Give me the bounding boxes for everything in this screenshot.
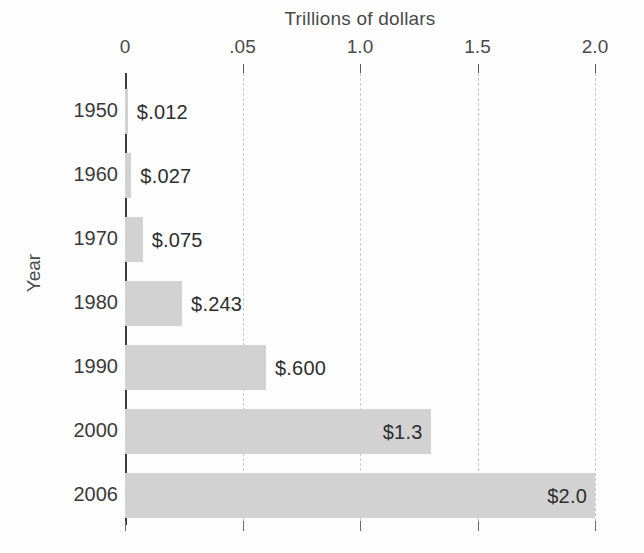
bar-row[interactable]: $.027 bbox=[125, 153, 131, 198]
bar[interactable] bbox=[125, 217, 143, 262]
bar-chart-figure: Trillions of dollars Year 0.051.01.52.0 … bbox=[0, 0, 644, 553]
bar[interactable] bbox=[125, 153, 131, 198]
x-bottom-tick-mark bbox=[478, 521, 479, 531]
x-tick-label: .05 bbox=[208, 36, 278, 58]
bar-row[interactable]: $.075 bbox=[125, 217, 143, 262]
bar-value-label: $.027 bbox=[140, 164, 191, 187]
bar[interactable] bbox=[125, 89, 128, 134]
bar-row[interactable]: $1.3 bbox=[125, 409, 431, 454]
bar-value-label: $.012 bbox=[137, 100, 188, 123]
bar-value-label: $.243 bbox=[191, 292, 242, 315]
x-bottom-tick-mark bbox=[125, 521, 126, 531]
bar-row[interactable]: $2.0 bbox=[125, 473, 595, 518]
x-tick-label: 1.0 bbox=[325, 36, 395, 58]
bar-row[interactable]: $.012 bbox=[125, 89, 128, 134]
gridline-2.0 bbox=[595, 73, 596, 521]
category-label: 1950 bbox=[38, 99, 118, 122]
category-label: 1970 bbox=[38, 227, 118, 250]
bar-value-label: $.075 bbox=[152, 228, 203, 251]
bar-value-label: $2.0 bbox=[547, 484, 587, 507]
x-axis-bottom-tick-marks bbox=[125, 521, 595, 533]
category-label: 2000 bbox=[38, 419, 118, 442]
category-label: 1990 bbox=[38, 355, 118, 378]
bar-value-label: $1.3 bbox=[383, 420, 423, 443]
x-bottom-tick-mark bbox=[243, 521, 244, 531]
x-bottom-tick-mark bbox=[360, 521, 361, 531]
x-tick-label: 1.5 bbox=[443, 36, 513, 58]
category-label: 1980 bbox=[38, 291, 118, 314]
gridline-1.5 bbox=[478, 73, 479, 521]
x-bottom-tick-mark bbox=[595, 521, 596, 531]
category-label: 1960 bbox=[38, 163, 118, 186]
plot-area: $.012$.027$.075$.243$.600$1.3$2.0 bbox=[125, 73, 595, 521]
bar-value-label: $.600 bbox=[275, 356, 326, 379]
bar[interactable] bbox=[125, 281, 182, 326]
x-tick-label: 2.0 bbox=[560, 36, 630, 58]
bar[interactable] bbox=[125, 473, 595, 518]
x-tick-label: 0 bbox=[90, 36, 160, 58]
category-label: 2006 bbox=[38, 483, 118, 506]
bar-row[interactable]: $.243 bbox=[125, 281, 182, 326]
bar-row[interactable]: $.600 bbox=[125, 345, 266, 390]
bar[interactable] bbox=[125, 345, 266, 390]
chart-title: Trillions of dollars bbox=[125, 8, 595, 30]
